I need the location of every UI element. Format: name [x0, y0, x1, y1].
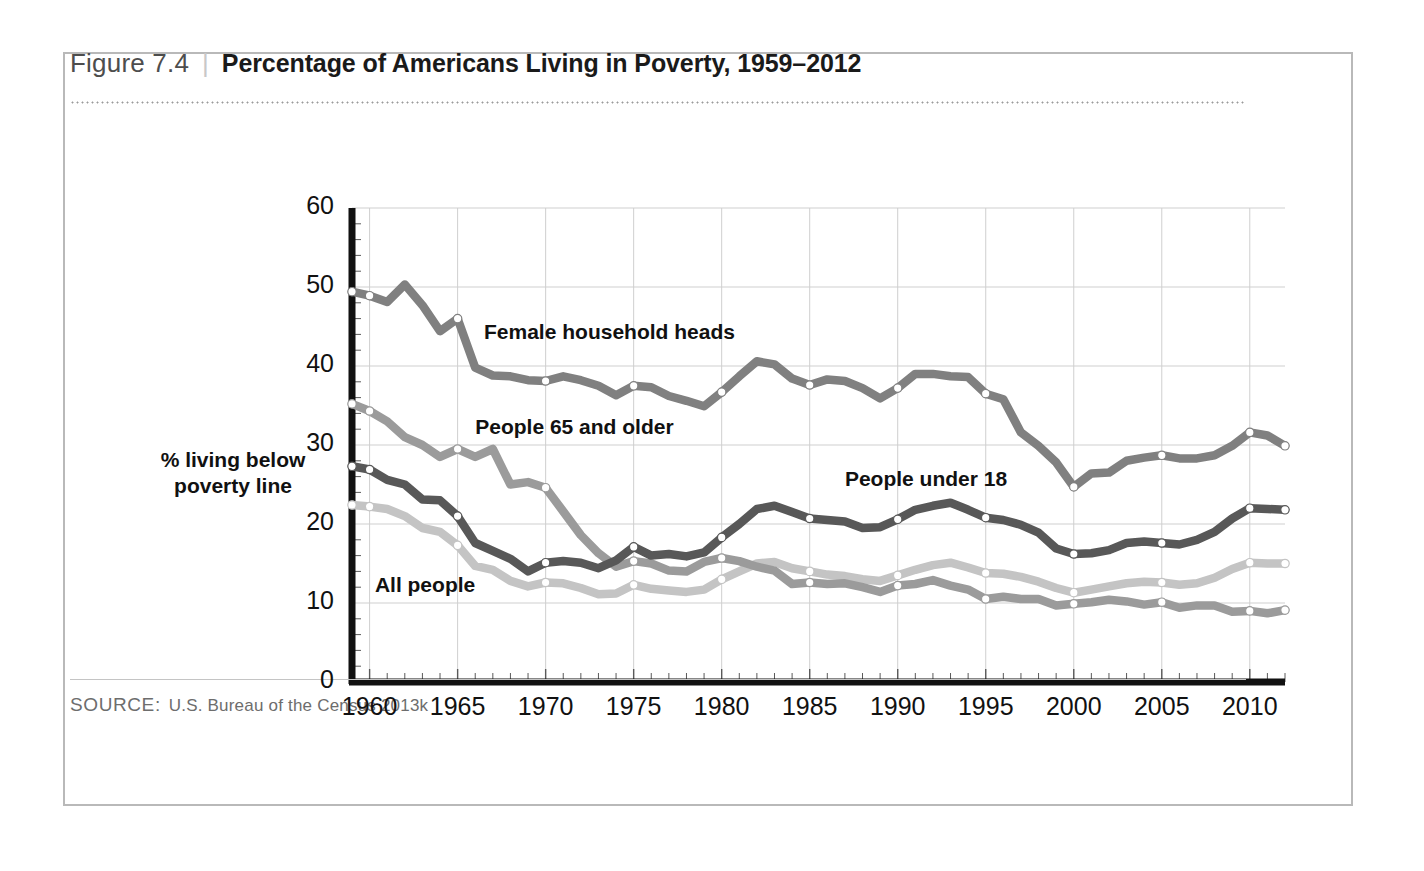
- figure-title: Figure 7.4 | Percentage of Americans Liv…: [70, 48, 861, 82]
- x-axis-tick-label: 1980: [677, 692, 767, 721]
- x-axis-tick-label: 1990: [853, 692, 943, 721]
- y-axis-tick-label: 0: [278, 665, 334, 694]
- x-axis-tick-label: 1985: [765, 692, 855, 721]
- x-axis-tick-label: 2000: [1029, 692, 1119, 721]
- series-label-people-under-18: People under 18: [845, 467, 1007, 491]
- x-axis-tick-label: 2005: [1117, 692, 1207, 721]
- y-axis-tick-label: 50: [278, 270, 334, 299]
- y-axis-tick-label: 60: [278, 191, 334, 220]
- series-label-female-household-heads: Female household heads: [484, 320, 735, 344]
- y-axis-tick-label: 30: [278, 428, 334, 457]
- title-separator: |: [202, 48, 209, 79]
- x-axis-tick-label: 1960: [325, 692, 415, 721]
- title-dotted-rule: [70, 101, 1246, 104]
- source-rule: [70, 679, 1246, 680]
- x-axis-tick-label: 1975: [589, 692, 679, 721]
- figure-title-text: Percentage of Americans Living in Povert…: [222, 49, 862, 78]
- figure-page: Figure 7.4 | Percentage of Americans Liv…: [0, 0, 1424, 871]
- x-axis-tick-label: 1995: [941, 692, 1031, 721]
- x-axis-tick-label: 1970: [501, 692, 591, 721]
- figure-number: Figure 7.4: [70, 48, 189, 79]
- x-axis-tick-label: 1965: [413, 692, 503, 721]
- y-axis-tick-label: 10: [278, 586, 334, 615]
- y-axis-tick-label: 40: [278, 349, 334, 378]
- y-axis-tick-label: 20: [278, 507, 334, 536]
- series-label-people-65-and-older: People 65 and older: [475, 415, 673, 439]
- x-axis-tick-label: 2010: [1205, 692, 1295, 721]
- series-label-all-people: All people: [375, 573, 475, 597]
- source-label: SOURCE:: [70, 694, 161, 716]
